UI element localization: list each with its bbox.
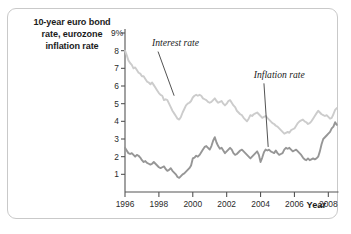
chart-title: 10-year euro bond rate, eurozone inflati…: [18, 16, 126, 53]
chart-series: [125, 51, 337, 178]
figure-card: 10-year euro bond rate, eurozone inflati…: [7, 8, 338, 219]
chart-title-line-2: rate, eurozone: [18, 28, 126, 40]
x-axis-label: Year: [307, 200, 326, 210]
plot-area: 9%876543211996199820002002200420062008 I…: [111, 27, 339, 199]
x-tick-label: 2000: [183, 199, 202, 209]
annotation-leader-line: [158, 52, 174, 96]
annotation-inflation-rate: Inflation rate: [254, 69, 305, 80]
x-tick-label: 2004: [251, 199, 270, 209]
x-tick-label: 1996: [116, 199, 135, 209]
y-tick-label: 4: [111, 116, 119, 126]
y-tick-label: 9%: [111, 28, 119, 38]
x-tick-label: 1998: [150, 199, 169, 209]
y-tick-label: 3: [111, 134, 119, 144]
series-line-interest-rate: [125, 51, 337, 134]
chart-title-line-3: inflation rate: [18, 40, 126, 52]
x-tick-label: 2006: [285, 199, 304, 209]
y-tick-label: 2: [111, 152, 119, 162]
y-tick-label: 8: [111, 46, 119, 56]
annotation-leader-line: [264, 83, 268, 147]
series-line-inflation-rate: [125, 122, 337, 178]
y-tick-label: 1: [111, 169, 119, 179]
x-tick-label: 2002: [217, 199, 236, 209]
annotation-interest-rate: Interest rate: [152, 37, 199, 48]
chart-plot-svg: [111, 27, 339, 199]
chart-title-line-1: 10-year euro bond: [18, 16, 126, 28]
y-tick-label: 6: [111, 81, 119, 91]
y-tick-label: 5: [111, 99, 119, 109]
chart-axes: [121, 29, 339, 197]
y-tick-label: 7: [111, 63, 119, 73]
